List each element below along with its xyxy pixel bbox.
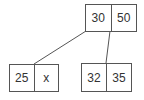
right-leaf-key-2: 35 bbox=[106, 64, 131, 91]
edge-root-to-right-leaf bbox=[106, 31, 110, 63]
left-leaf-node: 25 x bbox=[9, 64, 59, 92]
b-tree-diagram: 30 50 25 x 32 35 bbox=[0, 0, 144, 100]
root-key-1: 30 bbox=[86, 5, 111, 31]
right-leaf-node: 32 35 bbox=[81, 63, 132, 92]
root-node: 30 50 bbox=[85, 4, 137, 32]
root-key-2: 50 bbox=[111, 5, 137, 31]
edge-root-to-left-leaf bbox=[34, 31, 86, 64]
left-leaf-key-1: 25 bbox=[10, 65, 34, 91]
right-leaf-key-1: 32 bbox=[82, 64, 106, 91]
left-leaf-key-2: x bbox=[34, 65, 59, 91]
